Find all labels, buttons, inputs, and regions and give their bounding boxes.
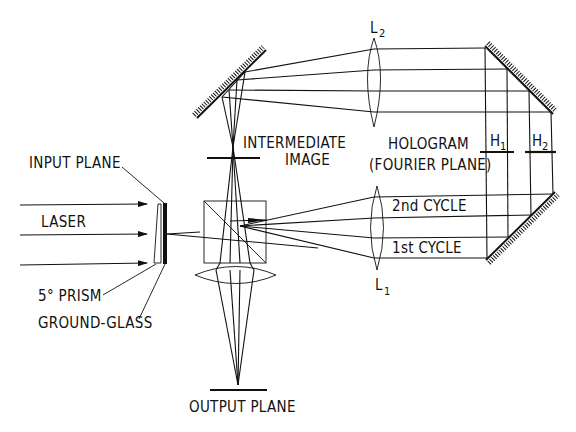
label-L2: L 2 — [370, 19, 386, 40]
mirror-lower-right — [486, 192, 558, 263]
optical-diagram: INPUT PLANE LASER 5° PRISM GROUND-GLASS … — [0, 0, 576, 432]
label-fourier-plane: (FOURIER PLANE) — [369, 156, 492, 174]
svg-text:H: H — [532, 132, 542, 150]
rays-L2-to-mirror — [374, 48, 551, 112]
label-H1: H 1 — [490, 132, 507, 153]
svg-text:2: 2 — [379, 27, 386, 40]
svg-text:L: L — [375, 276, 383, 294]
mirror-upper-right — [485, 43, 556, 114]
cycle-arrow — [230, 218, 267, 223]
svg-text:H: H — [490, 132, 500, 150]
rays-to-output — [216, 270, 254, 385]
label-H2: H 2 — [532, 132, 549, 153]
label-hologram: HOLOGRAM — [388, 135, 469, 153]
ground-glass-input-plane — [163, 203, 167, 264]
label-input-plane: INPUT PLANE — [29, 154, 121, 172]
label-laser: LASER — [41, 213, 86, 231]
label-2nd-cycle: 2nd CYCLE — [392, 197, 467, 215]
label-intermediate: INTERMEDIATE — [243, 134, 346, 152]
label-output-plane: OUTPUT PLANE — [189, 398, 296, 416]
svg-text:2: 2 — [542, 140, 549, 153]
label-ground-glass: GROUND-GLASS — [38, 314, 153, 332]
svg-text:1: 1 — [384, 285, 391, 298]
svg-text:1: 1 — [500, 140, 507, 153]
label-1st-cycle: 1st CYCLE — [392, 239, 462, 257]
rays-splitter-to-L1 — [240, 197, 374, 258]
svg-text:L: L — [370, 19, 378, 37]
beam-splitter-cube — [204, 201, 266, 263]
imaging-lens — [195, 267, 276, 284]
label-prism: 5° PRISM — [38, 287, 102, 305]
label-L1: L 1 — [375, 276, 391, 298]
prism-5-degree — [154, 204, 161, 263]
lens-L2 — [368, 38, 381, 127]
label-image: IMAGE — [285, 151, 330, 169]
rays-mirror-to-L2 — [222, 49, 374, 112]
